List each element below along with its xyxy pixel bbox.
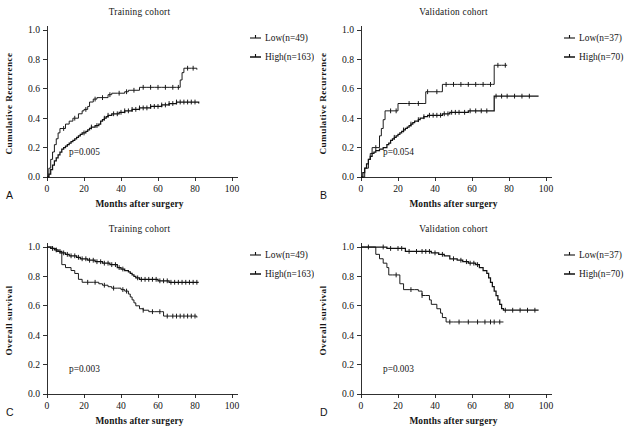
x-tick-label: 100: [539, 400, 554, 411]
legend-item-low: Low(n=49): [250, 33, 308, 44]
y-tick-label: 0.0: [28, 171, 40, 182]
panel-letter: B: [320, 189, 327, 201]
y-tick-label: 0.2: [342, 359, 354, 370]
legend-label: Low(n=37): [579, 33, 622, 44]
y-tick-label: 0.4: [28, 113, 40, 124]
y-axis-title: Overall survival: [4, 285, 14, 355]
survival-curve-low: [47, 68, 197, 177]
y-tick-label: 0.6: [28, 300, 40, 311]
y-tick-label: 0.8: [28, 54, 40, 65]
y-tick-label: 0.0: [342, 171, 354, 182]
legend-label: High(n=163): [265, 52, 314, 63]
legend-item-low: Low(n=37): [564, 250, 622, 261]
x-tick-label: 60: [153, 183, 163, 194]
y-axis-title: Cumulative Recurrence: [4, 53, 14, 155]
x-tick-label: 60: [153, 400, 163, 411]
survival-curve-high: [361, 96, 539, 177]
x-tick-label: 60: [467, 183, 477, 194]
x-tick-label: 80: [504, 400, 514, 411]
x-tick-label: 0: [359, 400, 364, 411]
legend-label: Low(n=49): [265, 250, 308, 261]
y-tick-label: 0.6: [28, 83, 40, 94]
x-axis-title: Months after surgery: [409, 199, 497, 209]
y-tick-label: 0.6: [342, 83, 354, 94]
x-tick-label: 80: [504, 183, 514, 194]
p-value-annotation: p=0.003: [69, 364, 100, 374]
x-tick-label: 0: [45, 400, 50, 411]
legend-item-low: Low(n=49): [250, 250, 308, 261]
x-tick-label: 20: [79, 400, 89, 411]
x-axis-title: Months after surgery: [95, 416, 183, 426]
y-axis-title: Overall survival: [318, 285, 328, 355]
y-tick-label: 0.8: [28, 271, 40, 282]
legend-label: High(n=70): [579, 52, 623, 63]
y-tick-label: 0.2: [342, 142, 354, 153]
y-tick-label: 1.0: [342, 24, 354, 35]
x-axis-title: Months after surgery: [95, 199, 183, 209]
kaplan-meier-figure: Training cohort0.00.20.40.60.81.00204060…: [0, 0, 628, 433]
panel-b-svg: Validation cohort0.00.20.40.60.81.002040…: [314, 0, 628, 216]
y-tick-label: 0.4: [342, 113, 354, 124]
y-tick-label: 0.4: [28, 330, 40, 341]
y-tick-label: 1.0: [342, 241, 354, 252]
legend-item-low: Low(n=37): [564, 33, 622, 44]
survival-curve-high: [47, 247, 199, 282]
panel-title: Training cohort: [109, 7, 171, 17]
legend-label: Low(n=49): [265, 33, 308, 44]
panel-a-svg: Training cohort0.00.20.40.60.81.00204060…: [0, 0, 314, 216]
panel-letter: C: [6, 406, 14, 418]
x-tick-label: 20: [79, 183, 89, 194]
y-tick-label: 0.2: [28, 359, 40, 370]
x-tick-label: 20: [393, 183, 403, 194]
survival-curve-high: [361, 247, 539, 310]
x-tick-label: 80: [190, 400, 200, 411]
y-tick-label: 0.2: [28, 142, 40, 153]
survival-curve-high: [47, 102, 199, 177]
p-value-annotation: p=0.005: [69, 147, 100, 157]
panel-c: Training cohort0.00.20.40.60.81.00204060…: [0, 217, 314, 433]
panel-d: Validation cohort0.00.20.40.60.81.002040…: [314, 217, 628, 433]
legend-item-high: High(n=163): [250, 269, 314, 280]
x-tick-label: 0: [45, 183, 50, 194]
legend-item-high: High(n=70): [564, 269, 623, 280]
survival-curve-low: [361, 247, 503, 322]
x-tick-label: 40: [430, 183, 440, 194]
x-tick-label: 0: [359, 183, 364, 194]
legend-label: High(n=70): [579, 269, 623, 280]
y-tick-label: 1.0: [28, 241, 40, 252]
y-axis-title: Cumulative Recurrence: [318, 53, 328, 155]
panel-title: Validation cohort: [419, 224, 488, 234]
panel-title: Training cohort: [109, 224, 171, 234]
x-tick-label: 40: [116, 183, 126, 194]
panel-a: Training cohort0.00.20.40.60.81.00204060…: [0, 0, 314, 216]
panel-b: Validation cohort0.00.20.40.60.81.002040…: [314, 0, 628, 216]
legend-label: High(n=163): [265, 269, 314, 280]
y-tick-label: 0.0: [28, 388, 40, 399]
x-tick-label: 20: [393, 400, 403, 411]
panel-title: Validation cohort: [419, 7, 488, 17]
legend-item-high: High(n=163): [250, 52, 314, 63]
x-tick-label: 40: [116, 400, 126, 411]
legend-label: Low(n=37): [579, 250, 622, 261]
panel-c-svg: Training cohort0.00.20.40.60.81.00204060…: [0, 217, 314, 433]
y-tick-label: 0.6: [342, 300, 354, 311]
x-tick-label: 100: [225, 183, 240, 194]
y-tick-label: 0.0: [342, 388, 354, 399]
p-value-annotation: p=0.003: [383, 364, 414, 374]
x-tick-label: 100: [539, 183, 554, 194]
y-tick-label: 0.8: [342, 271, 354, 282]
legend-item-high: High(n=70): [564, 52, 623, 63]
panel-d-svg: Validation cohort0.00.20.40.60.81.002040…: [314, 217, 628, 433]
y-tick-label: 0.4: [342, 330, 354, 341]
x-axis-title: Months after surgery: [409, 416, 497, 426]
x-tick-label: 60: [467, 400, 477, 411]
panel-letter: D: [320, 406, 328, 418]
x-tick-label: 100: [225, 400, 240, 411]
survival-curve-low: [361, 65, 507, 177]
x-tick-label: 40: [430, 400, 440, 411]
x-tick-label: 80: [190, 183, 200, 194]
panel-letter: A: [6, 189, 13, 201]
p-value-annotation: p=0.054: [383, 147, 414, 157]
y-tick-label: 0.8: [342, 54, 354, 65]
y-tick-label: 1.0: [28, 24, 40, 35]
